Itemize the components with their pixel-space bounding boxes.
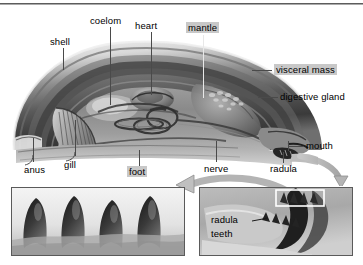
- micrograph-image: [12, 188, 184, 255]
- label-coelom: coelom: [90, 15, 121, 26]
- leader-coelom: [110, 27, 111, 105]
- leader-nerve: [216, 141, 217, 162]
- leader-heart: [151, 32, 152, 95]
- label-radula: radula: [270, 163, 297, 174]
- label-heart: heart: [135, 20, 157, 31]
- leader-mouth: [288, 146, 304, 147]
- radula-closeup-panel: radula teeth: [199, 187, 353, 256]
- radula-teeth-micrograph-panel: [11, 187, 185, 256]
- label-foot: foot: [127, 166, 147, 177]
- leader-gill: [75, 120, 76, 156]
- leader-shell: [63, 48, 64, 70]
- leader-visceral-mass: [252, 70, 272, 71]
- label-mouth: mouth: [306, 140, 333, 151]
- leader-radula: [283, 152, 284, 163]
- label-nerve: nerve: [204, 163, 228, 174]
- label-visceral-mass: visceral mass: [274, 64, 337, 75]
- panel-label-radula: radula: [211, 214, 238, 225]
- panel-label-teeth: teeth: [211, 228, 233, 239]
- leader-digestive-gland: [258, 97, 278, 98]
- label-gill: gill: [64, 159, 76, 170]
- leader-mouth-bracket: [288, 141, 289, 151]
- label-digestive-gland: digestive gland: [280, 91, 345, 102]
- snail-anatomy-figure: shell coelom heart mantle visceral mass …: [0, 0, 363, 265]
- leader-foot: [139, 150, 140, 166]
- label-anus: anus: [24, 164, 45, 175]
- label-shell: shell: [50, 36, 70, 47]
- label-mantle: mantle: [186, 22, 219, 33]
- leader-mantle: [203, 35, 204, 98]
